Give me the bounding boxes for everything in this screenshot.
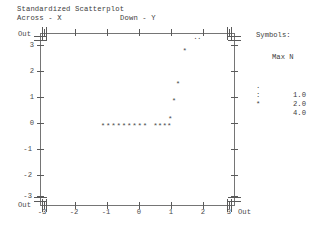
- data-point: *: [168, 116, 173, 124]
- y-axis-out-bottom-label: Out: [18, 201, 31, 209]
- legend-symbol-asterisk: *: [256, 100, 266, 109]
- data-point: *: [117, 123, 122, 131]
- x-tick-label-2: 2: [196, 208, 210, 216]
- y-tick-label-1: 1: [20, 93, 34, 101]
- data-points-layer: *****************..: [40, 33, 235, 206]
- x-tick-label-3: 3: [222, 208, 236, 216]
- y-tick-label--1: -1: [18, 145, 32, 153]
- legend-value-3: 4.0: [278, 109, 306, 118]
- y-tick-label-0: 0: [20, 119, 34, 127]
- data-point: *: [111, 123, 116, 131]
- scatterplot-page: Standardized Scatterplot Across - X Down…: [0, 0, 320, 233]
- data-point: *: [106, 123, 111, 131]
- x-tick-label-1: 1: [164, 208, 178, 216]
- data-point: *: [101, 123, 106, 131]
- legend-heading: Symbols:: [256, 31, 291, 40]
- x-tick-label-0: 0: [132, 208, 146, 216]
- data-point: *: [167, 123, 172, 131]
- legend: Symbols: Max N . 1.0 : 2.0 * 4.0: [256, 31, 273, 103]
- x-axis-out-right-label: Out: [238, 208, 251, 216]
- x-axis-title: Across - X: [17, 14, 62, 23]
- legend-row-3: * 4.0: [256, 91, 312, 127]
- data-point: *: [127, 123, 132, 131]
- plot-frame: *****************..: [40, 33, 235, 206]
- data-point: *: [172, 98, 177, 106]
- y-tick-label--3: -3: [18, 192, 32, 200]
- y-tick-label-2: 2: [20, 67, 34, 75]
- y-tick-label-3: 3: [20, 41, 34, 49]
- data-point-out: .: [197, 34, 202, 42]
- data-point: *: [122, 123, 127, 131]
- y-tick-label--2: -2: [18, 171, 32, 179]
- y-axis-title: Down - Y: [120, 14, 156, 23]
- data-point: *: [143, 123, 148, 131]
- page-title: Standardized Scatterplot: [17, 5, 124, 14]
- x-tick-label--1: -1: [99, 208, 113, 216]
- data-point: *: [132, 123, 137, 131]
- x-tick-label--3: -3: [35, 208, 49, 216]
- x-tick-label--2: -2: [67, 208, 81, 216]
- y-axis-out-top-label: Out: [18, 30, 31, 38]
- legend-column-header: Max N: [272, 53, 294, 62]
- data-point: *: [137, 123, 142, 131]
- data-point: *: [176, 81, 181, 89]
- data-point: *: [182, 48, 187, 56]
